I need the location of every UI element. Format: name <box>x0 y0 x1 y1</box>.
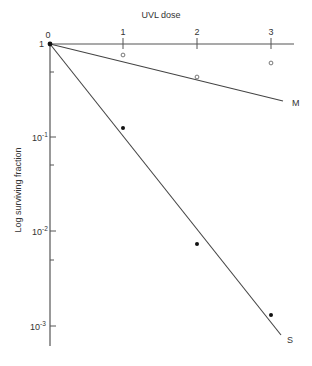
x-tick-label-3: 3 <box>268 27 273 37</box>
survival-chart: UVL dose 0 1 2 3 1 10-1 10-2 10-3 Log su… <box>0 0 312 366</box>
y-ticks <box>50 72 56 326</box>
y-tick-label-0.001: 10-3 <box>30 320 46 332</box>
data-point-m <box>195 75 199 79</box>
y-tick-label-1: 1 <box>39 39 44 49</box>
x-tick-label-0: 0 <box>45 30 50 40</box>
data-point-s <box>269 313 273 317</box>
fit-line-s <box>50 44 281 335</box>
series-m-points <box>121 53 273 79</box>
y-tick-label-0.01: 10-2 <box>32 225 48 237</box>
origin-point <box>48 42 53 47</box>
x-tick-label-2: 2 <box>194 27 199 37</box>
x-tick-label-1: 1 <box>120 27 125 37</box>
series-label-m: M <box>292 98 300 108</box>
y-tick-label-0.1: 10-1 <box>32 131 48 143</box>
data-point-s <box>121 126 125 130</box>
series-label-s: S <box>287 335 293 345</box>
data-point-m <box>269 61 273 65</box>
data-point-m <box>121 53 125 57</box>
series-s-points <box>121 126 273 317</box>
x-axis-title: UVL dose <box>141 10 180 20</box>
fit-line-m <box>50 44 283 101</box>
y-axis-title: Log surviving fraction <box>13 147 23 232</box>
data-point-s <box>195 242 199 246</box>
